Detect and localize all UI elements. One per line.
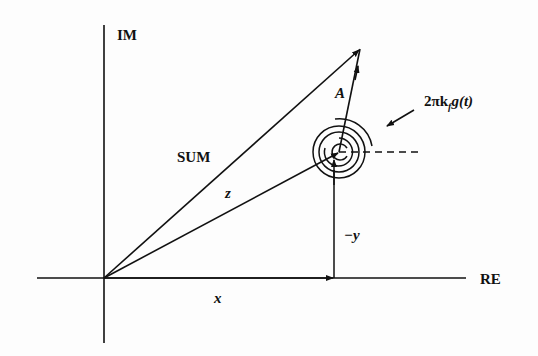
neg-y-label: −y bbox=[344, 228, 360, 243]
diagram-graphics bbox=[0, 0, 538, 356]
sum-label: SUM bbox=[177, 150, 210, 165]
rotation-pointer-arrow bbox=[387, 110, 414, 126]
im-axis-label: IM bbox=[117, 28, 137, 43]
a-label: A bbox=[335, 86, 345, 101]
rotation-label-tail: g(t) bbox=[451, 93, 473, 109]
x-label: x bbox=[214, 291, 222, 306]
rotation-label-main: 2πk bbox=[424, 93, 448, 109]
rotation-spiral-icon bbox=[313, 119, 372, 178]
rotation-label: 2πkfg(t) bbox=[424, 94, 473, 112]
re-axis-label: RE bbox=[480, 272, 501, 287]
z-label: z bbox=[225, 186, 231, 201]
sum-vector bbox=[104, 50, 359, 278]
z-vector bbox=[104, 153, 338, 278]
phasor-diagram: IM RE SUM z A x −y 2πkfg(t) bbox=[0, 0, 538, 356]
